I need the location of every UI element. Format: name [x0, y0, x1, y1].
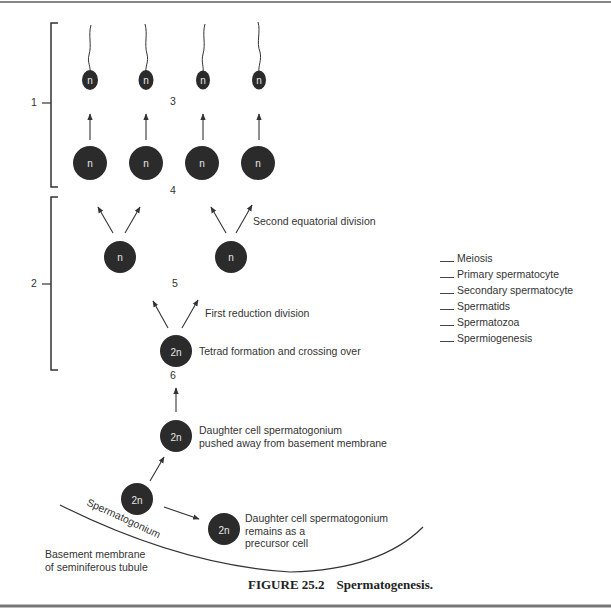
spermiogenesis-arrows — [90, 114, 259, 140]
answer-blank[interactable] — [440, 261, 454, 262]
remains-label-line2: remains as a — [245, 525, 388, 538]
remains-label-line3: precursor cell — [245, 537, 388, 550]
svg-text:n: n — [143, 158, 149, 169]
legend-item-spermatids: Spermatids — [440, 298, 573, 314]
step-number-4: 4 — [170, 184, 176, 196]
legend-item-primary-spermatocyte: Primary spermatocyte — [440, 266, 573, 282]
svg-text:2n: 2n — [170, 347, 181, 358]
answer-blank[interactable] — [440, 341, 454, 342]
caption-label: FIGURE 25.2 — [248, 577, 325, 592]
matching-legend: Meiosis Primary spermatocyte Secondary s… — [440, 250, 573, 346]
svg-text:n: n — [228, 252, 234, 263]
step-number-3: 3 — [170, 95, 176, 107]
svg-text:n: n — [87, 158, 93, 169]
bracket-2 — [42, 197, 58, 370]
bracket-label-1: 1 — [31, 96, 37, 108]
spermatozoa — [82, 22, 266, 90]
bracket-label-2: 2 — [31, 277, 37, 289]
svg-text:2n: 2n — [131, 495, 142, 506]
answer-blank[interactable] — [440, 325, 454, 326]
answer-blank[interactable] — [440, 293, 454, 294]
pushed-label-line2: pushed away from basement membrane — [199, 437, 387, 450]
spermatogenesis-figure: Spermatogonium n n n n n n n n n n 2n 2n… — [0, 0, 611, 612]
second-division-label: Second equatorial division — [253, 215, 376, 228]
spermatids — [73, 146, 275, 180]
pushed-label: Daughter cell spermatogonium pushed away… — [199, 424, 387, 449]
legend-item-spermiogenesis: Spermiogenesis — [440, 330, 573, 346]
answer-blank[interactable] — [440, 277, 454, 278]
legend-item-secondary-spermatocyte: Secondary spermatocyte — [440, 282, 573, 298]
secondary-spermatocytes — [104, 241, 247, 273]
basement-membrane-label: Basement membrane of seminiferous tubule — [45, 548, 148, 573]
step-number-5: 5 — [172, 277, 178, 289]
second-division-arrows — [98, 205, 252, 233]
svg-text:n: n — [87, 75, 93, 86]
pushed-label-line1: Daughter cell spermatogonium — [199, 424, 387, 437]
tetrad-label: Tetrad formation and crossing over — [199, 345, 361, 358]
step-number-6: 6 — [170, 369, 176, 381]
answer-blank[interactable] — [440, 309, 454, 310]
svg-text:n: n — [117, 252, 123, 263]
first-division-label: First reduction division — [205, 307, 309, 320]
membrane-label-line2: of seminiferous tubule — [45, 561, 148, 574]
svg-text:n: n — [255, 158, 261, 169]
legend-item-meiosis: Meiosis — [440, 250, 573, 266]
figure-caption: FIGURE 25.2Spermatogenesis. — [0, 577, 611, 593]
first-division-arrows — [153, 300, 198, 328]
svg-text:n: n — [143, 75, 149, 86]
cell-labels: n n n n n n n n n n 2n 2n 2n 2n — [87, 75, 262, 536]
remain-arrow — [164, 507, 199, 519]
svg-text:n: n — [199, 158, 205, 169]
svg-text:2n: 2n — [170, 432, 181, 443]
push-arrow — [150, 457, 164, 481]
membrane-label-line1: Basement membrane — [45, 548, 148, 561]
caption-title: Spermatogenesis. — [337, 577, 433, 592]
svg-text:2n: 2n — [218, 525, 229, 536]
legend-item-spermatozoa: Spermatozoa — [440, 314, 573, 330]
svg-text:n: n — [256, 75, 262, 86]
svg-text:n: n — [200, 75, 206, 86]
remains-label-line1: Daughter cell spermatogonium — [245, 512, 388, 525]
remains-label: Daughter cell spermatogonium remains as … — [245, 512, 388, 550]
bracket-1 — [42, 23, 58, 187]
